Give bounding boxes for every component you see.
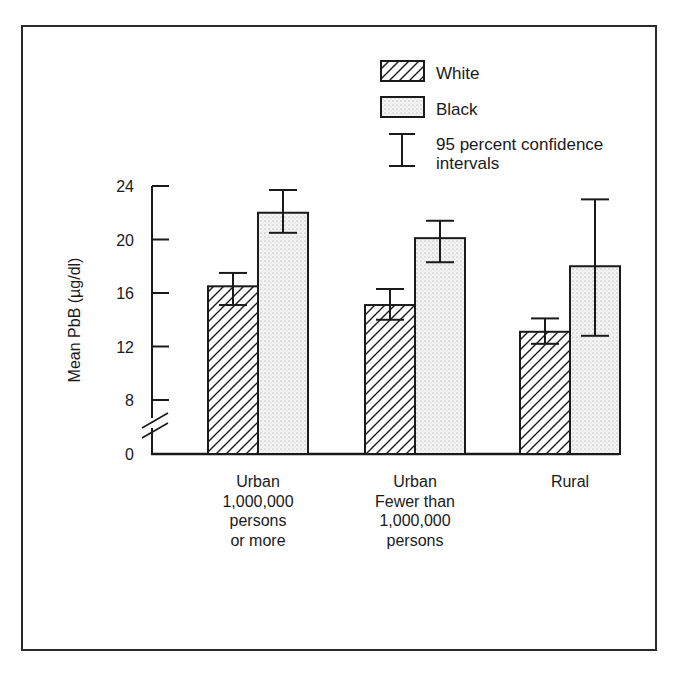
error-bar-icon <box>389 134 415 166</box>
y-tick-label: 24 <box>116 178 134 195</box>
y-tick-label: 16 <box>116 285 134 302</box>
legend-item-ci: 95 percent confidence intervals <box>389 134 603 173</box>
x-category-label: Urban <box>393 473 437 490</box>
bar-chart: White Black 95 percent confidence interv… <box>0 0 683 676</box>
x-category-label: 1,000,000 <box>379 512 450 529</box>
legend-item-white: White <box>381 61 479 83</box>
bar-white <box>365 305 415 454</box>
bar-white <box>208 286 258 454</box>
x-category-label: Fewer than <box>375 493 455 510</box>
bar-black <box>415 238 465 454</box>
legend: White Black 95 percent confidence interv… <box>381 61 603 173</box>
legend-label-ci-line1: 95 percent confidence <box>436 135 603 154</box>
y-axis-label: Mean PbB (µg/dl) <box>66 258 83 383</box>
x-category-label: Rural <box>551 473 589 490</box>
bars <box>208 190 620 454</box>
y-tick-label: 12 <box>116 339 134 356</box>
legend-label-white: White <box>436 64 479 83</box>
x-category-label: 1,000,000 <box>222 493 293 510</box>
stipple-swatch-icon <box>381 97 424 117</box>
x-category-label: persons <box>230 512 287 529</box>
legend-item-black: Black <box>381 97 478 119</box>
hatch-swatch-icon <box>381 61 424 81</box>
x-category-label: persons <box>387 532 444 549</box>
y-tick-label: 0 <box>125 446 134 463</box>
x-category-label: or more <box>230 532 285 549</box>
x-category-label: Urban <box>236 473 280 490</box>
y-ticks: 0812162024 <box>116 178 169 463</box>
bar-black <box>258 213 308 454</box>
bar-white <box>520 332 570 454</box>
y-tick-label: 8 <box>125 392 134 409</box>
legend-label-black: Black <box>436 100 478 119</box>
y-tick-label: 20 <box>116 232 134 249</box>
x-tick-labels: Urban1,000,000personsor moreUrbanFewer t… <box>222 473 589 549</box>
axis-break-icon <box>142 413 168 438</box>
legend-label-ci-line2: intervals <box>436 154 499 173</box>
